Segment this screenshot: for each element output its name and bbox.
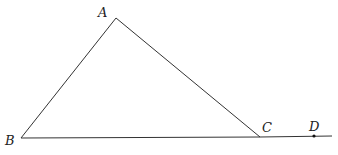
label-point-c: C (262, 121, 272, 134)
ray-cd-extension (260, 136, 332, 137)
label-point-d: D (309, 120, 319, 133)
label-point-b: B (5, 134, 15, 147)
segment-bc (21, 137, 260, 138)
triangle-diagram (0, 0, 338, 155)
label-point-a: A (98, 6, 107, 19)
segment-ac (116, 18, 260, 137)
point-d-dot (312, 134, 315, 137)
segment-ab (21, 18, 116, 138)
